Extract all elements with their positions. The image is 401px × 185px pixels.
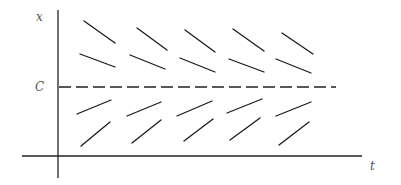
slope-segment bbox=[130, 55, 165, 69]
slope-field-diagram: x C t bbox=[0, 0, 401, 185]
slope-segment bbox=[137, 28, 167, 50]
slope-segment bbox=[282, 33, 313, 54]
slope-segment bbox=[177, 101, 212, 116]
equilibrium-label: C bbox=[35, 80, 44, 94]
slope-segment bbox=[233, 29, 264, 51]
x-axis-label: t bbox=[370, 159, 375, 173]
slope-segment bbox=[132, 120, 161, 143]
slope-segment bbox=[180, 58, 215, 72]
slope-segment bbox=[276, 59, 311, 73]
slope-segment bbox=[81, 122, 110, 146]
slope-segment bbox=[227, 99, 262, 113]
slope-segment bbox=[77, 100, 111, 114]
slope-segment bbox=[184, 119, 213, 141]
slope-segment bbox=[276, 102, 311, 116]
slope-segment bbox=[279, 122, 309, 145]
slope-segment bbox=[185, 30, 215, 52]
y-axis-label: x bbox=[36, 10, 43, 24]
slope-segment bbox=[80, 54, 115, 67]
direction-field-segments bbox=[77, 21, 313, 146]
slope-segment bbox=[229, 59, 264, 72]
slope-segment bbox=[230, 118, 260, 140]
slope-segment bbox=[84, 21, 115, 43]
slope-segment bbox=[127, 102, 161, 116]
